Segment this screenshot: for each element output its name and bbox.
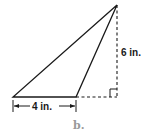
triangle-diagram: 4 in. 6 in. b. [0, 0, 147, 133]
caption: b. [73, 119, 85, 132]
arrowhead-left [14, 104, 19, 108]
triangle [13, 5, 117, 97]
base-label: 4 in. [32, 101, 52, 112]
arrowhead-right [70, 104, 75, 108]
right-angle-marker [110, 89, 117, 97]
height-label: 6 in. [121, 47, 141, 58]
